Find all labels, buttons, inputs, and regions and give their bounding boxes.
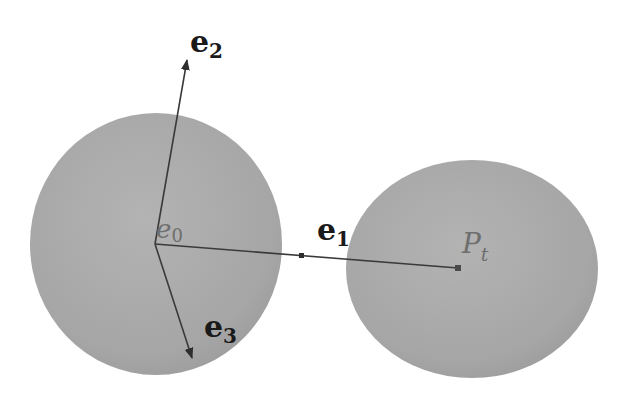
diagram-canvas: e2 e0 e1 Pt e3: [0, 0, 636, 400]
label-e1: e1: [317, 212, 350, 251]
e1-tick-mark: [299, 253, 304, 258]
target-point-marker: [455, 265, 461, 271]
label-e2: e2: [190, 24, 223, 63]
right-sphere: [346, 160, 598, 378]
